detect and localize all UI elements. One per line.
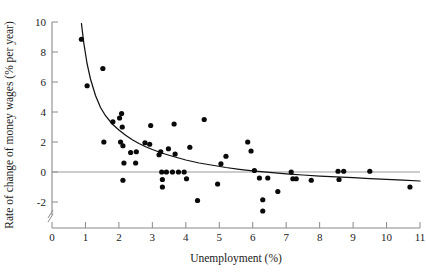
data-point <box>294 176 299 181</box>
data-point <box>245 139 250 144</box>
x-axis-ticks: 01234567891011 <box>49 222 425 243</box>
data-point <box>195 198 200 203</box>
data-point <box>128 150 133 155</box>
y-axis-ticks: -20246810 <box>35 16 58 208</box>
data-point <box>173 151 178 156</box>
chart-figure: -20246810 01234567891011 Unemployment (%… <box>0 0 426 273</box>
y-tick-label: 0 <box>41 166 47 178</box>
phillips-curve-scatter-plot: -20246810 01234567891011 Unemployment (%… <box>0 0 426 273</box>
data-point <box>289 169 294 174</box>
data-point <box>148 123 153 128</box>
data-point <box>142 140 147 145</box>
data-point <box>166 146 171 151</box>
data-point <box>341 169 346 174</box>
data-point <box>265 175 270 180</box>
x-tick-label: 6 <box>250 231 256 243</box>
y-tick-label: 4 <box>41 106 47 118</box>
x-tick-label: 7 <box>283 231 289 243</box>
data-point <box>158 149 163 154</box>
y-axis-break-icon <box>48 210 53 222</box>
data-point <box>248 148 253 153</box>
data-point <box>100 66 105 71</box>
y-tick-label: 10 <box>35 16 47 28</box>
data-point <box>218 161 223 166</box>
y-axis-title: Rate of change of money wages (% per yea… <box>3 21 16 229</box>
data-point <box>134 149 139 154</box>
data-point <box>159 169 164 174</box>
data-point <box>223 154 228 159</box>
data-point <box>160 177 165 182</box>
y-tick-label: -2 <box>37 196 46 208</box>
data-point <box>407 184 412 189</box>
data-point <box>79 37 84 42</box>
x-tick-label: 9 <box>350 231 356 243</box>
data-point <box>117 115 122 120</box>
data-point <box>121 160 126 165</box>
data-point <box>164 169 169 174</box>
data-point <box>336 177 341 182</box>
x-tick-label: 4 <box>183 231 189 243</box>
data-point <box>85 83 90 88</box>
y-tick-label: 2 <box>41 136 47 148</box>
x-tick-label: 11 <box>415 231 426 243</box>
data-point <box>119 111 124 116</box>
data-point <box>120 178 125 183</box>
data-point <box>260 208 265 213</box>
data-point <box>133 160 138 165</box>
data-point <box>110 119 115 124</box>
data-point <box>275 189 280 194</box>
x-tick-label: 8 <box>317 231 323 243</box>
fit-curve <box>81 24 420 182</box>
data-point <box>176 169 181 174</box>
x-tick-label: 3 <box>150 231 156 243</box>
data-point <box>120 143 125 148</box>
data-point <box>147 142 152 147</box>
data-point <box>101 139 106 144</box>
y-tick-label: 8 <box>41 46 47 58</box>
data-point <box>215 181 220 186</box>
y-tick-label: 6 <box>41 76 47 88</box>
data-point <box>252 168 257 173</box>
data-point <box>202 117 207 122</box>
x-tick-label: 10 <box>381 231 393 243</box>
data-point <box>172 121 177 126</box>
data-point <box>260 197 265 202</box>
data-point <box>170 169 175 174</box>
data-point <box>184 176 189 181</box>
x-tick-label: 2 <box>116 231 122 243</box>
x-axis-title: Unemployment (%) <box>190 252 282 265</box>
x-tick-label: 1 <box>83 231 89 243</box>
x-tick-label: 5 <box>217 231 223 243</box>
data-point <box>120 124 125 129</box>
data-points <box>79 37 413 214</box>
plot-axes <box>48 22 420 228</box>
data-point <box>367 169 372 174</box>
data-point <box>309 178 314 183</box>
x-tick-label: 0 <box>49 231 55 243</box>
data-point <box>257 175 262 180</box>
data-point <box>187 145 192 150</box>
data-point <box>160 184 165 189</box>
data-point <box>335 169 340 174</box>
data-point <box>182 169 187 174</box>
